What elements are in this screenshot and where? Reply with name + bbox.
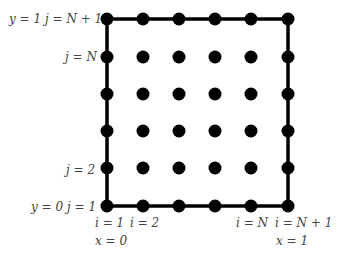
grid-point [209, 51, 222, 64]
label-i-N1: i = N + 1 [275, 216, 332, 230]
label-i-1: i = 1 [95, 216, 124, 230]
grid-point [209, 88, 222, 101]
grid-point [282, 88, 295, 101]
grid-point [245, 200, 258, 213]
grid-point [101, 13, 114, 26]
boundary-square [107, 19, 288, 206]
grid-point [137, 88, 150, 101]
grid-point [101, 51, 114, 64]
grid-point [101, 88, 114, 101]
grid-point [282, 200, 295, 213]
grid-point [282, 13, 295, 26]
label-i-N: i = N [236, 216, 268, 230]
grid-point [137, 51, 150, 64]
grid-point [245, 13, 258, 26]
grid-point [173, 162, 186, 175]
label-x-left: x = 0 [95, 234, 127, 248]
label-y-bottom: y = 0 [31, 200, 63, 214]
grid-point [282, 162, 295, 175]
label-j-N: j = N [65, 50, 97, 64]
grid-point [173, 51, 186, 64]
grid-diagram: y = 1 j = N + 1 j = N j = 2 y = 0 j = 1 … [0, 0, 341, 260]
grid-point [137, 13, 150, 26]
label-j-2: j = 2 [66, 163, 95, 177]
grid-point [101, 125, 114, 138]
grid-point [245, 51, 258, 64]
grid-point [173, 13, 186, 26]
grid-point [282, 125, 295, 138]
grid-point [282, 51, 295, 64]
grid-point [137, 125, 150, 138]
grid-point [245, 125, 258, 138]
grid-point [209, 13, 222, 26]
label-j-1: j = 1 [67, 200, 96, 214]
grid-point [173, 125, 186, 138]
grid-point [101, 200, 114, 213]
label-y-top: y = 1 [9, 12, 41, 26]
grid-points [101, 13, 295, 213]
grid-point [173, 88, 186, 101]
grid-point [245, 88, 258, 101]
label-j-top: j = N + 1 [45, 12, 102, 26]
grid-point [209, 200, 222, 213]
grid-point [173, 200, 186, 213]
grid-point [137, 162, 150, 175]
grid-point [245, 162, 258, 175]
label-x-right: x = 1 [276, 234, 308, 248]
grid-point [101, 162, 114, 175]
grid-point [137, 200, 150, 213]
grid-point [209, 162, 222, 175]
grid-point [209, 125, 222, 138]
label-i-2: i = 2 [130, 216, 159, 230]
